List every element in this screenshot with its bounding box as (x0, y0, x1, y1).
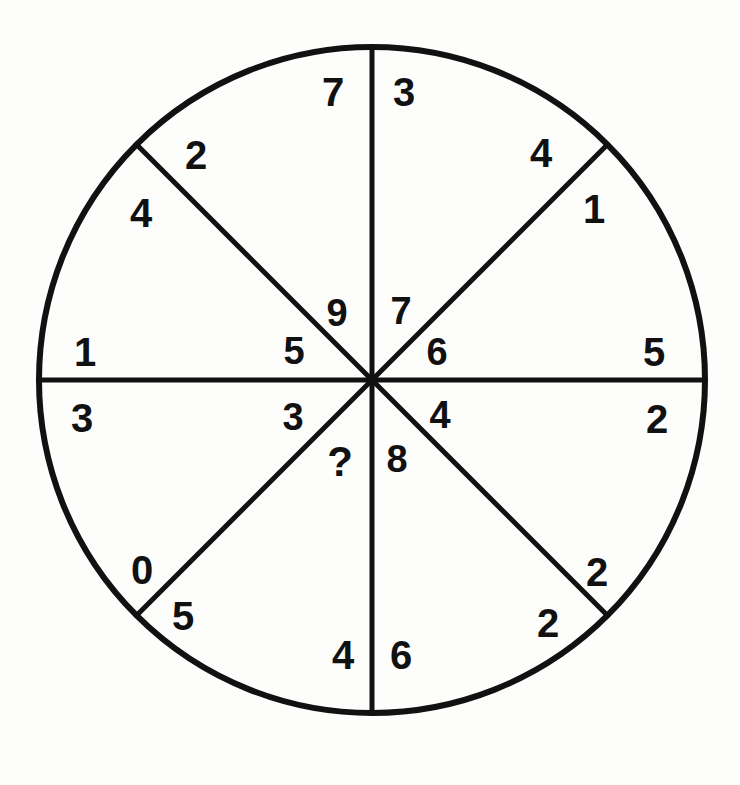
rim-digit-lower-right-ccw: 2 (586, 552, 608, 592)
rim-digit-left-upper: 1 (74, 332, 96, 372)
rim-digit-upper-left-cw: 4 (130, 193, 152, 233)
rim-digit-upper-right-ccw: 4 (530, 133, 552, 173)
rim-digit-top-left: 7 (322, 72, 344, 112)
hub-digit-bottom-right: 8 (386, 440, 407, 478)
rim-digit-bottom-right: 6 (390, 635, 412, 675)
hub-digit-top-left: 9 (326, 294, 347, 332)
rim-digit-upper-right-cw: 1 (583, 189, 605, 229)
hub-digit-right-upper: 6 (426, 333, 447, 371)
rim-digit-right-lower: 2 (646, 399, 668, 439)
missing-value-question-mark: ? (327, 441, 353, 483)
rim-digit-right-upper: 5 (643, 332, 665, 372)
rim-digit-lower-left-ccw: 0 (131, 550, 153, 590)
hub-digit-right-lower: 4 (429, 396, 450, 434)
hub-digit-top-right: 7 (390, 292, 411, 330)
hub-digit-left-lower: 3 (282, 398, 303, 436)
rim-digit-top-right: 3 (393, 72, 415, 112)
rim-digit-bottom-left: 4 (332, 635, 354, 675)
rim-digit-left-lower: 3 (71, 398, 93, 438)
rim-digit-lower-left-cw: 5 (172, 596, 194, 636)
hub-digit-left-upper: 5 (283, 332, 304, 370)
circle-diagram (0, 0, 740, 785)
rim-digit-upper-left-ccw: 2 (185, 135, 207, 175)
rim-digit-lower-right-cw: 2 (537, 603, 559, 643)
puzzle-figure: 7 3 2 4 4 1 1 3 5 2 0 5 2 2 4 6 9 7 5 6 … (0, 0, 740, 785)
